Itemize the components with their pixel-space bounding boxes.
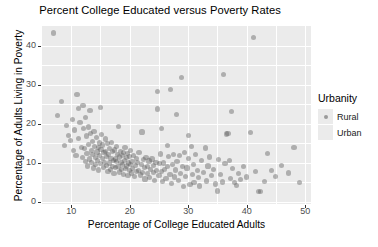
x-axis-title: Percentage of College Educated Adults — [42, 219, 311, 230]
data-point — [218, 172, 223, 177]
data-point — [80, 103, 85, 108]
data-point — [68, 138, 73, 143]
data-point — [182, 150, 187, 155]
data-point — [215, 188, 220, 193]
legend-label: Urban — [337, 128, 362, 138]
legend-swatch-point-icon — [318, 109, 333, 124]
data-point — [220, 179, 225, 184]
data-point — [174, 159, 179, 164]
legend-title: Urbanity — [318, 92, 362, 104]
data-point — [91, 129, 96, 134]
data-point — [216, 157, 221, 162]
gridline-vertical — [217, 26, 218, 204]
data-point — [273, 174, 278, 179]
data-point — [204, 178, 209, 183]
legend-entries: RuralUrban — [318, 109, 362, 140]
data-point — [179, 75, 184, 80]
data-point — [51, 30, 56, 35]
gridline-horizontal — [42, 202, 311, 203]
data-point — [139, 129, 144, 134]
y-tick-mark — [38, 46, 41, 47]
data-point — [189, 144, 194, 149]
chart-title: Percent College Educated versus Poverty … — [0, 4, 320, 17]
data-point — [74, 92, 79, 97]
data-point — [262, 179, 267, 184]
data-point — [213, 181, 218, 186]
data-point — [98, 105, 103, 110]
data-point — [265, 151, 270, 156]
y-tick-mark — [38, 202, 41, 203]
gridline-horizontal — [42, 85, 311, 86]
gridline-vertical — [305, 26, 306, 204]
data-point — [230, 166, 235, 171]
data-point — [168, 87, 173, 92]
x-tick-label: 10 — [51, 206, 91, 216]
data-point — [297, 180, 302, 185]
data-point — [77, 120, 82, 125]
gridline-vertical — [188, 26, 189, 204]
data-point — [211, 167, 216, 172]
plot-panel — [42, 26, 311, 204]
x-tick-label: 30 — [168, 206, 208, 216]
x-tick-label: 50 — [285, 206, 325, 216]
data-point — [159, 126, 164, 131]
data-point — [229, 109, 234, 114]
data-point — [72, 127, 77, 132]
data-point — [195, 168, 200, 173]
data-point — [136, 150, 141, 155]
data-point — [201, 170, 206, 175]
data-point — [227, 158, 232, 163]
data-point — [55, 113, 60, 118]
caption-text — [0, 240, 378, 244]
legend-entry-urban[interactable]: Urban — [318, 125, 362, 140]
data-point — [236, 171, 241, 176]
scatter-plot-figure: Percent College Educated versus Poverty … — [0, 0, 378, 247]
data-point — [193, 152, 198, 157]
data-point — [64, 123, 69, 128]
data-point — [241, 164, 246, 169]
data-point — [176, 178, 181, 183]
data-point — [286, 170, 291, 175]
data-point — [109, 140, 114, 145]
data-point — [196, 175, 201, 180]
data-point — [155, 106, 160, 111]
data-point — [191, 180, 196, 185]
data-point — [62, 143, 67, 148]
data-point — [234, 183, 239, 188]
data-point — [158, 151, 163, 156]
gridline-horizontal — [42, 46, 311, 47]
data-point — [132, 174, 137, 179]
data-point — [73, 153, 78, 158]
y-tick-mark — [38, 124, 41, 125]
data-point — [197, 183, 202, 188]
data-point — [279, 163, 284, 168]
data-point — [111, 171, 116, 176]
data-point — [258, 189, 263, 194]
data-point — [181, 184, 186, 189]
x-tick-label: 40 — [227, 206, 267, 216]
data-point — [171, 152, 176, 157]
data-point — [165, 143, 170, 148]
y-tick-mark — [38, 85, 41, 86]
data-point — [244, 174, 249, 179]
gridline-horizontal — [42, 143, 311, 144]
data-point — [87, 108, 92, 113]
data-point — [155, 89, 160, 94]
gridline-vertical — [71, 26, 72, 204]
data-point — [205, 163, 210, 168]
data-point — [209, 173, 214, 178]
data-point — [253, 169, 258, 174]
data-point — [184, 165, 189, 170]
data-point — [169, 181, 174, 186]
data-point — [177, 153, 182, 158]
legend-entry-rural[interactable]: Rural — [318, 109, 362, 124]
caption-sliver — [0, 240, 378, 247]
data-point — [203, 145, 208, 150]
data-point — [269, 168, 274, 173]
data-point — [186, 133, 191, 138]
data-point — [174, 112, 179, 117]
data-point — [191, 162, 196, 167]
data-point — [76, 136, 81, 141]
legend-swatch-square-icon — [318, 125, 333, 140]
data-point — [221, 72, 226, 77]
